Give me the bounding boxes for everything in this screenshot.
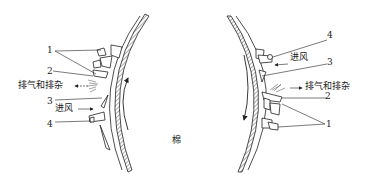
diagram-canvas: [0, 0, 370, 189]
right-label-2: 2: [325, 92, 331, 101]
cotton-label: 棉: [172, 136, 181, 145]
right-label-1: 1: [326, 120, 332, 129]
right-label-3: 3: [327, 58, 333, 67]
left-label-1: 1: [47, 46, 53, 55]
left-intake-label: 进风: [55, 104, 73, 113]
right-exhaust-fibers: [270, 84, 285, 92]
left-label-2: 2: [47, 67, 53, 76]
right-rotation-arrow: [244, 55, 248, 120]
right-cover-plates: [256, 49, 282, 130]
left-rotation-arrow: [123, 78, 128, 130]
left-exhaust-fibers: [87, 80, 98, 92]
left-exhaust-label: 排气和排杂: [18, 81, 63, 90]
right-exhaust-label: 排气和排杂: [305, 82, 350, 91]
left-label-4: 4: [47, 120, 53, 129]
left-label-3: 3: [47, 97, 53, 106]
right-label-4: 4: [327, 31, 333, 40]
right-cylinder: [227, 16, 266, 172]
left-cylinder: [110, 14, 149, 172]
right-intake-label: 进风: [290, 53, 308, 62]
right-intake-arrow: [275, 64, 288, 65]
